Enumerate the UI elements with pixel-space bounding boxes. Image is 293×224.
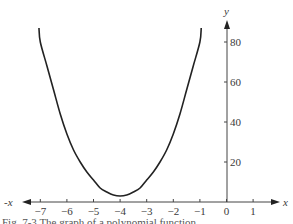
x-axis-label: x — [282, 196, 288, 208]
x-axis-arrow-right-icon — [271, 199, 280, 205]
chart: 20406080 −7−6−5−4−3−2−101 -x x y — [0, 0, 293, 224]
curve-line — [39, 28, 201, 196]
y-tick-label: 60 — [230, 76, 242, 88]
y-axis-label: y — [223, 5, 229, 17]
x-tick-label: 1 — [250, 205, 256, 217]
x-tick-label: 0 — [224, 205, 230, 217]
figure-caption: Fig. 7-3 The graph of a polynomial funct… — [2, 216, 196, 224]
y-axis-arrow-up-icon — [224, 20, 230, 29]
x-axis-negative-label: -x — [4, 196, 13, 208]
y-tick-label: 20 — [230, 156, 242, 168]
x-axis-arrow-left-icon — [22, 199, 31, 205]
y-tick-label: 80 — [230, 36, 242, 48]
y-tick-label: 40 — [230, 116, 242, 128]
